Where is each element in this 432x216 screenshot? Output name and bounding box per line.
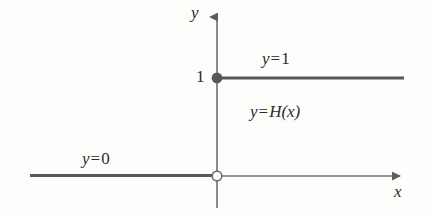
label-y-equals-0-op: = <box>90 149 102 168</box>
y-axis-label: y <box>191 4 199 21</box>
label-y-equals-1-lhs: y <box>262 49 270 68</box>
label-h-rhs: H(x) <box>269 102 300 121</box>
label-h-op: = <box>258 102 270 121</box>
heaviside-step-function-figure: y x 1 y=1 y=H(x) y=0 <box>0 0 432 216</box>
label-y-equals-0-rhs: 0 <box>101 149 110 168</box>
closed-point-marker <box>212 73 223 84</box>
y-tick-label-1: 1 <box>196 68 205 85</box>
label-y-equals-h-of-x: y=H(x) <box>250 103 300 120</box>
label-y-equals-0: y=0 <box>82 150 110 167</box>
open-point-marker <box>212 171 222 181</box>
graph-canvas <box>0 0 432 216</box>
label-y-equals-1: y=1 <box>262 50 290 67</box>
x-axis-label: x <box>394 183 402 200</box>
label-y-equals-1-op: = <box>270 49 282 68</box>
label-y-equals-0-lhs: y <box>82 149 90 168</box>
label-h-lhs: y <box>250 102 258 121</box>
label-y-equals-1-rhs: 1 <box>281 49 290 68</box>
